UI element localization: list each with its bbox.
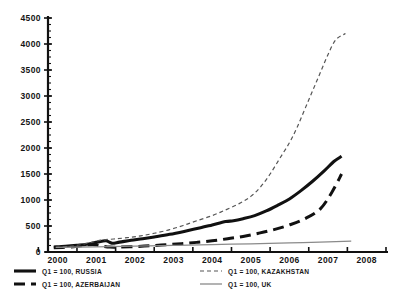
y-tick-label: 1000 <box>20 195 41 205</box>
x-tick-label: 2006 <box>279 255 300 265</box>
legend-label[interactable]: Q1 = 100, KAZAKHSTAN <box>228 268 309 276</box>
x-axis-tick-labels: 200020012002200320042005200620072008 <box>47 255 377 265</box>
x-tick-label: 2008 <box>356 255 377 265</box>
y-tick-label: 3500 <box>20 65 41 75</box>
y-axis-tick-labels: 050010001500200025003000350040004500 <box>20 13 41 257</box>
legend-label[interactable]: Q1 = 100, UK <box>228 281 272 289</box>
x-tick-label: 2001 <box>86 255 107 265</box>
y-tick-label: 4000 <box>20 39 41 49</box>
y-tick-label: 2500 <box>20 117 41 127</box>
y-tick-label: 2000 <box>20 143 41 153</box>
x-axis-group: 200020012002200320042005200620072008 <box>38 247 388 265</box>
y-tick-label: 1500 <box>20 169 41 179</box>
chart-legend: Q1 = 100, RUSSIAQ1 = 100, AZERBAIJANQ1 =… <box>14 268 309 289</box>
x-tick-label: 2003 <box>163 255 184 265</box>
line-chart: 050010001500200025003000350040004500 200… <box>0 0 397 299</box>
data-series-layer <box>54 34 351 248</box>
y-tick-label: 500 <box>26 221 41 231</box>
x-tick-label: 2004 <box>202 255 223 265</box>
x-tick-label: 2000 <box>47 255 68 265</box>
y-axis-group: 050010001500200025003000350040004500 <box>20 13 52 257</box>
series-line-kazakhstan <box>56 34 346 248</box>
y-tick-label: 3000 <box>20 91 41 101</box>
series-line-russia <box>54 156 342 247</box>
y-tick-label: 4500 <box>20 13 41 23</box>
x-tick-label: 2002 <box>125 255 146 265</box>
series-line-azerbaijan <box>54 174 342 248</box>
x-tick-label: 2005 <box>241 255 262 265</box>
chart-container: 050010001500200025003000350040004500 200… <box>0 0 397 299</box>
legend-label[interactable]: Q1 = 100, AZERBAIJAN <box>42 281 120 289</box>
legend-label[interactable]: Q1 = 100, RUSSIA <box>42 268 102 276</box>
x-tick-label: 2007 <box>318 255 339 265</box>
